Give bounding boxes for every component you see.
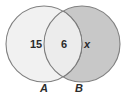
venn-diagram-figure: 15 6 x A B [0,0,125,100]
set-a-label: A [39,82,48,94]
region-value-a-only: 15 [30,38,42,50]
region-value-b-only: x [83,38,91,50]
venn-diagram-canvas: 15 6 x A B [0,0,125,100]
set-b-label: B [75,82,83,94]
region-value-intersection: 6 [61,38,67,50]
